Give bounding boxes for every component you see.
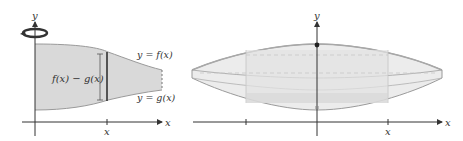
diagram-canvas: y x x y = f(x) y = g(x) f(x) − g(x) (0, 0, 463, 141)
right-x-tick-label: x (385, 126, 391, 137)
inner-radius-point (316, 106, 319, 109)
right-y-axis-label: y (313, 10, 320, 21)
left-panel: y x x y = f(x) y = g(x) f(x) − g(x) (20, 10, 176, 137)
upper-curve-label: y = f(x) (136, 49, 173, 60)
rotation-arrow-icon (20, 29, 47, 37)
left-x-tick-label: x (104, 126, 110, 137)
lower-curve-label: y = g(x) (136, 92, 176, 103)
left-x-axis-label: x (165, 117, 171, 128)
left-y-axis-label: y (31, 10, 38, 21)
height-label: f(x) − g(x) (51, 73, 104, 84)
right-panel: y x x (192, 10, 451, 137)
right-x-axis-label: x (445, 117, 451, 128)
outer-radius-point (315, 43, 320, 48)
